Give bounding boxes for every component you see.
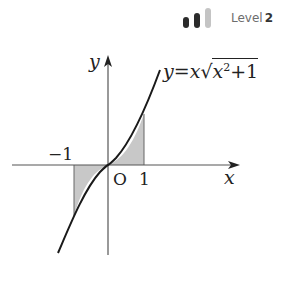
curve [58, 70, 160, 253]
equation-y: y [163, 60, 174, 82]
equation-x: x [190, 60, 201, 82]
y-axis-label: y [89, 52, 100, 71]
equation-radicand-x: x [212, 60, 223, 82]
equation-radicand: x2+1 [212, 58, 258, 82]
tick-label-1: 1 [139, 171, 150, 188]
equation-plus-one: +1 [230, 60, 258, 82]
x-axis-label: x [224, 168, 235, 187]
equation-equals: = [174, 60, 190, 82]
tick-label-neg1: −1 [48, 146, 73, 163]
sqrt-icon: √ [200, 60, 212, 82]
function-graph [0, 0, 287, 281]
shaded-area-negative [74, 165, 108, 216]
equation-label: y=x√x2+1 [163, 62, 258, 81]
origin-label: O [113, 171, 127, 188]
